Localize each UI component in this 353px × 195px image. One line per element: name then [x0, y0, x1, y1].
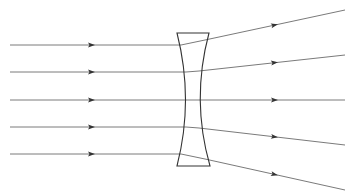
- refracted-ray: [199, 55, 345, 71]
- internal-ray: [181, 40, 205, 45]
- arrow-icon: [271, 22, 279, 28]
- ray-4: [10, 125, 345, 146]
- ray-5: [10, 152, 345, 191]
- internal-ray: [181, 154, 205, 159]
- concave-lens: [177, 33, 210, 166]
- ray-2: [10, 55, 345, 75]
- internal-ray: [186, 71, 199, 72]
- lens-outline: [177, 33, 210, 166]
- internal-ray: [186, 127, 199, 128]
- ray-1: [10, 10, 345, 48]
- arrow-icon: [271, 171, 279, 177]
- refracted-ray: [199, 128, 345, 145]
- ray-diagram: [0, 0, 353, 195]
- ray-3: [10, 98, 345, 103]
